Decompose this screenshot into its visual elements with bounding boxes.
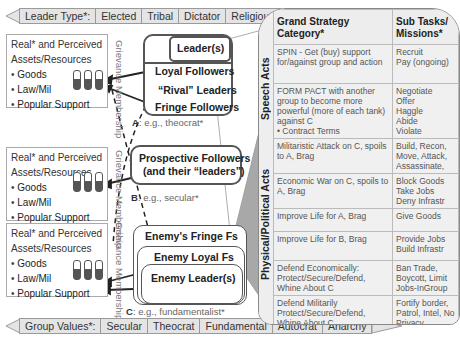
table-row: Militaristic Attack on C, spoils to A, B… bbox=[274, 139, 459, 174]
row-tasks: Ban Trade, Boycott, Limit Jobs-InGroup bbox=[393, 261, 459, 296]
group-values-theocrat: Theocrat bbox=[148, 319, 200, 333]
strategy-table: Grand Strategy Category* Sub Tasks/ Miss… bbox=[273, 9, 459, 325]
group-values-secular: Secular bbox=[101, 319, 148, 333]
group-a-caption: A: e.g., theocrat* bbox=[132, 117, 203, 128]
row-tasks: Provide Jobs Build Infrastr bbox=[393, 232, 459, 261]
table-row: Economic War on C, spoils to A, Brag Blo… bbox=[274, 174, 459, 209]
row-category: Economic War on C, spoils to A, Brag bbox=[274, 174, 393, 209]
table-row: Improve Life for A, Brag Give Goods bbox=[274, 209, 459, 232]
row-tasks: Block Goods Take Jobs Deny Infrastr bbox=[393, 174, 459, 209]
group-a-rival: “Rival” Leaders bbox=[158, 84, 237, 96]
divider bbox=[143, 62, 233, 64]
table-row: Defend Economically: Protect/Secure/Defe… bbox=[274, 261, 459, 296]
assets-subtitle: Assets/Resources bbox=[11, 241, 107, 256]
row-category: FORM PACT with another group to become m… bbox=[274, 84, 393, 139]
group-a-fringe: Fringe Followers bbox=[155, 101, 239, 113]
leader-type-dictator: Dictator bbox=[179, 9, 226, 23]
assets-subtitle: Assets/Resources bbox=[11, 52, 107, 67]
table-header: Grand Strategy Category* Sub Tasks/ Miss… bbox=[274, 10, 459, 45]
row-tasks: Give Goods bbox=[393, 209, 459, 232]
grievance-label-a: Grievance Membership bbox=[114, 40, 124, 138]
table-row: Defend Militarily Protect/Secure/Defend,… bbox=[274, 296, 459, 326]
physical-political-acts-label: Physical/Political Acts bbox=[259, 129, 273, 319]
group-a-loyal: Loyal Followers bbox=[155, 65, 234, 77]
group-c-leaders: Enemy Leader(s) bbox=[151, 272, 236, 284]
row-category: Improve Life for A, Brag bbox=[274, 209, 393, 232]
resource-tanks-c bbox=[73, 260, 103, 280]
asset-law-mil: Law/Mil bbox=[11, 195, 107, 210]
table-row: FORM PACT with another group to become m… bbox=[274, 84, 459, 139]
assets-title: Real* and Perceived bbox=[11, 150, 107, 165]
leader-type-banner: Leader Type*: Elected Tribal Dictator Re… bbox=[6, 8, 293, 24]
row-category: Defend Militarily Protect/Secure/Defend,… bbox=[274, 296, 393, 326]
asset-popular-support: Popular Support bbox=[11, 97, 107, 112]
group-c-leaders-frame bbox=[141, 264, 243, 304]
group-values-label: Group Values*: bbox=[20, 319, 101, 333]
row-category: Defend Economically: Protect/Secure/Defe… bbox=[274, 261, 393, 296]
row-tasks: Negotiate Offer Haggle Abide Violate bbox=[393, 84, 459, 139]
row-category: Improve Life for B, Brag bbox=[274, 232, 393, 261]
arrow-left-icon bbox=[6, 8, 20, 24]
table-row: Improve Life for B, Brag Provide Jobs Bu… bbox=[274, 232, 459, 261]
group-b-line1: Prospective Followers bbox=[139, 152, 250, 164]
grand-strategy-panel: Speech Acts Physical/Political Acts Gran… bbox=[258, 8, 460, 325]
group-c-fringe: Enemy's Fringe Fs bbox=[145, 230, 238, 242]
speech-acts-label: Speech Acts bbox=[259, 44, 273, 134]
row-tasks: Build, Recon, Move, Attack, Assassinate, bbox=[393, 139, 459, 174]
assets-title: Real* and Perceived bbox=[11, 226, 107, 241]
header-tasks: Sub Tasks/ Missions* bbox=[393, 10, 459, 45]
grievance-label-c: Grievance Membership bbox=[114, 222, 124, 320]
header-category: Grand Strategy Category* bbox=[274, 10, 393, 45]
table-row: SPIN - Get (buy) support for/against gro… bbox=[274, 45, 459, 84]
row-tasks: Fortify border, Patrol, Intel, No Privac… bbox=[393, 296, 459, 326]
group-a-leaders: Leader(s) bbox=[177, 42, 224, 54]
leader-type-label: Leader Type*: bbox=[20, 9, 96, 23]
leader-type-elected: Elected bbox=[96, 9, 142, 23]
row-category: Militaristic Attack on C, spoils to A, B… bbox=[274, 139, 393, 174]
resource-tanks-b bbox=[73, 172, 103, 192]
group-b-line2: (and their “leaders”) bbox=[143, 165, 245, 177]
row-category: SPIN - Get (buy) support for/against gro… bbox=[274, 45, 393, 84]
leader-type-tribal: Tribal bbox=[142, 9, 179, 23]
group-c-caption: C: e.g., fundamentalist* bbox=[126, 306, 225, 317]
row-tasks: Recruit Pay (ongoing) bbox=[393, 45, 459, 84]
assets-title: Real* and Perceived bbox=[11, 37, 107, 52]
group-c-loyal: Enemy Loyal Fs bbox=[154, 251, 234, 263]
group-b-caption: B: e.g., secular* bbox=[131, 192, 199, 203]
arrow-left-icon bbox=[6, 318, 20, 334]
resource-tanks-a bbox=[73, 70, 103, 90]
asset-popular-support: Popular Support bbox=[11, 286, 107, 301]
